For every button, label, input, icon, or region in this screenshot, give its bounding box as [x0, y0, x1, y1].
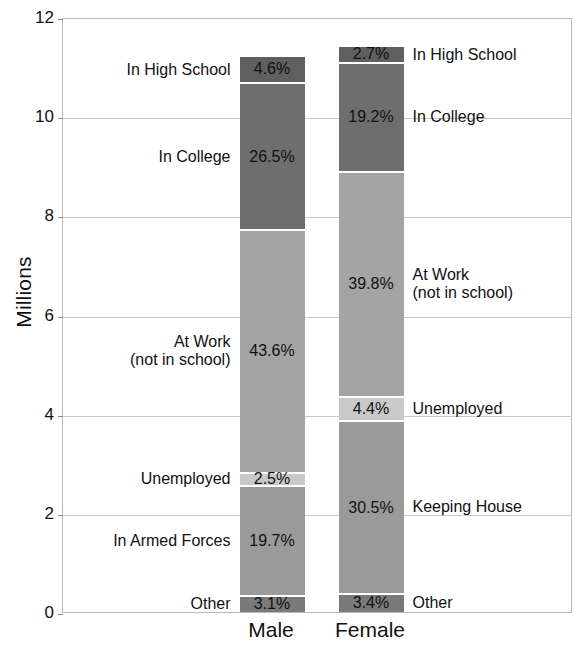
- y-tickmark: [58, 19, 63, 20]
- gridline: [63, 317, 571, 318]
- bar-segment[interactable]: 30.5%: [339, 420, 404, 592]
- bar-segment[interactable]: 26.5%: [240, 82, 305, 229]
- segment-value-label: 43.6%: [249, 343, 294, 359]
- series-label-right: In College: [413, 108, 580, 126]
- y-tick-label: 12: [20, 8, 54, 28]
- segment-value-label: 4.4%: [353, 401, 389, 417]
- series-label-right: In High School: [413, 46, 580, 64]
- bar-segment[interactable]: 3.1%: [240, 595, 305, 612]
- y-tickmark: [58, 118, 63, 119]
- y-tickmark: [58, 515, 63, 516]
- segment-value-label: 26.5%: [249, 149, 294, 165]
- y-tickmark: [58, 614, 63, 615]
- y-tick-label: 8: [20, 206, 54, 226]
- bar-segment[interactable]: 19.7%: [240, 485, 305, 594]
- bar-segment[interactable]: 19.2%: [339, 62, 404, 171]
- segment-value-label: 39.8%: [348, 276, 393, 292]
- series-label-left: Other: [0, 595, 231, 613]
- y-tick-label: 10: [20, 107, 54, 127]
- bar-segment[interactable]: 3.4%: [339, 593, 404, 612]
- gridline: [63, 217, 571, 218]
- segment-value-label: 3.1%: [254, 596, 290, 612]
- y-tick-label: 6: [20, 306, 54, 326]
- bar-segment[interactable]: 4.4%: [339, 396, 404, 421]
- segment-value-label: 2.7%: [353, 46, 389, 62]
- series-label-left: In Armed Forces: [0, 532, 231, 550]
- y-tickmark: [58, 317, 63, 318]
- bar-segment[interactable]: 4.6%: [240, 57, 305, 83]
- bar-female[interactable]: 2.7%19.2%39.8%4.4%30.5%3.4%: [339, 47, 404, 612]
- bar-male[interactable]: 4.6%26.5%43.6%2.5%19.7%3.1%: [240, 57, 305, 612]
- x-category-label-female: Female: [300, 618, 440, 642]
- series-label-left: Unemployed: [0, 470, 231, 488]
- y-tick-label: 2: [20, 504, 54, 524]
- series-label-right: Other: [413, 594, 580, 612]
- segment-value-label: 4.6%: [254, 61, 290, 77]
- y-tickmark: [58, 217, 63, 218]
- series-label-right: At Work(not in school): [413, 266, 580, 303]
- series-label-left: At Work(not in school): [0, 333, 231, 370]
- bar-segment[interactable]: 2.5%: [240, 472, 305, 486]
- segment-value-label: 3.4%: [353, 595, 389, 611]
- bar-segment[interactable]: 39.8%: [339, 171, 404, 396]
- bar-segment[interactable]: 2.7%: [339, 47, 404, 62]
- y-axis-tick-labels: 024681012: [18, 0, 54, 653]
- y-tickmark: [58, 416, 63, 417]
- series-label-right: Keeping House: [413, 498, 580, 516]
- series-label-right: Unemployed: [413, 400, 580, 418]
- stacked-bar-chart: Millions 024681012 4.6%26.5%43.6%2.5%19.…: [0, 0, 580, 653]
- y-tick-label: 4: [20, 405, 54, 425]
- segment-value-label: 19.2%: [348, 109, 393, 125]
- segment-value-label: 30.5%: [348, 500, 393, 516]
- segment-value-label: 19.7%: [249, 533, 294, 549]
- series-label-left: In High School: [0, 61, 231, 79]
- bar-segment[interactable]: 43.6%: [240, 229, 305, 471]
- series-label-left: In College: [0, 148, 231, 166]
